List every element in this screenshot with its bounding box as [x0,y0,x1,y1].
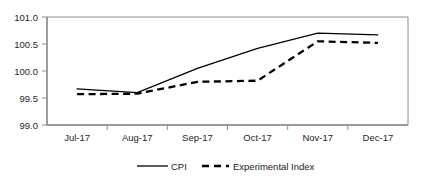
legend: CPI Experimental Index [137,161,315,172]
y-tick-label-99-5: 99.5 [20,93,39,104]
plot-area-background [47,17,408,125]
y-tick-label-100-5: 100.5 [14,39,38,50]
y-tick-label-100-0: 100.0 [14,66,38,77]
chart-canvas: 99.0 99.5 100.0 100.5 101.0 Jul-17 Aug-1… [0,0,427,183]
x-axis-ticks [107,125,348,130]
x-tick-label-aug-17: Aug-17 [122,132,153,143]
x-tick-label-nov-17: Nov-17 [302,132,333,143]
y-tick-label-101-0: 101.0 [14,12,38,23]
x-tick-label-sep-17: Sep-17 [182,132,213,143]
line-chart: 99.0 99.5 100.0 100.5 101.0 Jul-17 Aug-1… [0,0,427,183]
legend-label-cpi: CPI [171,161,187,172]
x-tick-label-jul-17: Jul-17 [64,132,90,143]
y-axis-ticks [42,17,47,125]
x-tick-label-oct-17: Oct-17 [243,132,272,143]
x-tick-label-dec-17: Dec-17 [363,132,394,143]
y-tick-label-99-0: 99.0 [20,120,39,131]
legend-label-experimental-index: Experimental Index [233,161,315,172]
